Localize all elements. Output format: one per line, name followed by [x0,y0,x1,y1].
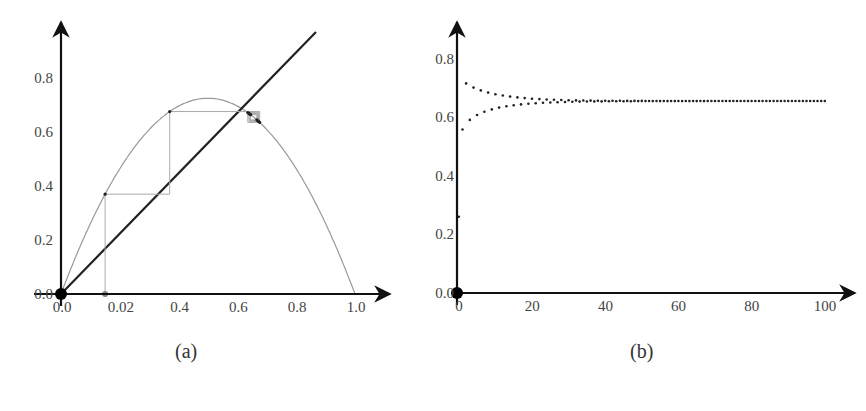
data-point [586,100,589,103]
data-point [611,100,614,103]
data-point [802,100,805,103]
data-point [553,99,556,102]
data-point [824,100,827,103]
data-point [487,91,490,94]
data-point [582,99,585,102]
data-point [765,100,768,103]
x-tick-label: 60 [671,298,686,314]
data-point [571,101,574,104]
cobweb-point [255,118,258,121]
y-tick-label: 0.0 [34,286,53,302]
data-point [816,100,819,103]
time-series-chart: 0.00.20.40.60.8020406080100 [435,22,855,314]
data-point [739,100,742,103]
y-tick-label: 0.4 [34,178,53,194]
data-point [772,100,775,103]
data-point [706,100,709,103]
x-tick-label: 1.0 [347,299,366,315]
data-point [695,100,698,103]
data-point [494,93,497,96]
x-tick-label: 0.4 [170,299,189,315]
data-point [512,104,515,107]
data-point [761,100,764,103]
data-point [608,100,611,103]
data-point [531,97,534,100]
data-point [520,103,523,106]
y-tick-label: 0.2 [34,232,53,248]
data-point [575,99,578,102]
data-point [549,101,552,104]
x-tick-label: 80 [744,298,759,314]
data-point [509,95,512,98]
data-point [732,100,735,103]
data-point [523,97,526,100]
caption-a: (a) [175,340,197,363]
y-tick-label: 0.0 [435,285,454,301]
data-point [491,108,494,111]
data-point [776,100,779,103]
data-point [637,100,640,103]
data-point [743,100,746,103]
y-tick-label: 0.8 [435,51,454,67]
data-point [699,100,702,103]
data-point [516,96,519,99]
data-point [626,100,629,103]
data-point [794,100,797,103]
data-point [498,106,501,109]
data-point [604,99,607,102]
cobweb-point [104,193,107,196]
data-point [644,100,647,103]
data-point [780,100,783,103]
data-point [758,100,761,103]
data-point [688,100,691,103]
data-point [589,99,592,102]
data-point [502,94,505,97]
data-point [681,100,684,103]
data-point [556,101,559,104]
cobweb-chart: 0.00.20.40.60.80.00.020.40.60.81.0 [34,22,390,315]
data-point [534,102,537,105]
data-point [663,100,666,103]
data-point [633,100,636,103]
data-point [600,100,603,103]
y-tick-label: 0.8 [34,70,53,86]
y-tick-label: 0.4 [435,168,454,184]
data-point [703,100,706,103]
data-point [622,100,625,103]
data-point [469,119,472,122]
y-tick-label: 0.2 [435,226,454,242]
data-point [527,103,530,106]
data-point [769,100,772,103]
cobweb-point [249,113,252,116]
x-tick-label: 0 [455,298,463,314]
data-point [655,100,658,103]
data-point [472,86,475,89]
data-point [725,100,728,103]
data-point [805,100,808,103]
cobweb-point [168,110,171,113]
data-point [465,82,468,85]
x-tick-label: 0.02 [108,299,134,315]
data-point [560,99,563,102]
data-point [652,100,655,103]
x-tick-label: 40 [598,298,613,314]
x-tick-label: 0.6 [229,299,248,315]
data-point [750,100,753,103]
data-point [736,100,739,103]
y-tick-label: 0.6 [34,124,53,140]
data-point [615,100,618,103]
x-tick-label: 0.0 [53,299,72,315]
data-point [545,98,548,101]
data-point [542,102,545,105]
y-tick-label: 0.6 [435,109,454,125]
data-point [593,100,596,103]
data-point [483,110,486,113]
data-point [798,100,801,103]
cobweb-path [105,112,260,294]
data-point [820,100,823,103]
data-point [809,100,812,103]
data-point [476,114,479,117]
x-tick-label: 0.8 [288,299,307,315]
data-point [791,100,794,103]
data-point [714,100,717,103]
